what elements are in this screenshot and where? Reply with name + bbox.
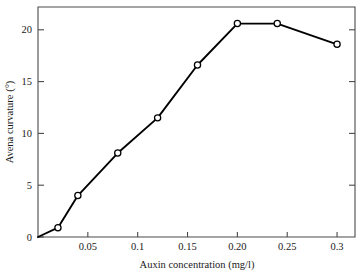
axis-frame [38,7,355,237]
y-axis-ticks [38,30,355,237]
data-point-3 [115,150,121,156]
x-tick-label-5: 0.3 [330,241,343,252]
data-point-8 [334,41,340,47]
data-series-markers [55,20,340,230]
avena-curvature-line-chart: 0.050.10.150.200.250.3 05101520 Auxin co… [0,0,364,273]
data-point-2 [75,192,81,198]
x-axis-ticks [88,232,337,237]
data-point-1 [55,225,61,231]
data-point-5 [194,62,200,68]
data-point-4 [155,115,161,121]
x-tick-label-1: 0.1 [131,241,144,252]
plot-frame [38,7,355,237]
data-point-6 [234,20,240,26]
chart-figure: 0.050.10.150.200.250.3 05101520 Auxin co… [0,0,364,273]
y-tick-label-2: 10 [22,128,33,139]
y-tick-label-1: 5 [27,180,32,191]
y-tick-label-0: 0 [27,232,32,243]
x-tick-label-2: 0.15 [178,241,196,252]
x-tick-label-0: 0.05 [79,241,97,252]
x-axis-tick-labels: 0.050.10.150.200.250.3 [79,241,344,252]
series-path [38,24,337,237]
x-tick-label-3: 0.20 [228,241,246,252]
x-axis-title: Auxin concentration (mg/l) [140,259,255,271]
data-series-line [38,24,337,237]
y-axis-tick-labels: 05101520 [22,24,33,242]
y-axis-title: Avena curvature (°) [4,80,16,163]
y-tick-label-4: 20 [22,24,33,35]
y-tick-label-3: 15 [22,76,33,87]
data-point-7 [274,20,280,26]
x-tick-label-4: 0.25 [278,241,296,252]
